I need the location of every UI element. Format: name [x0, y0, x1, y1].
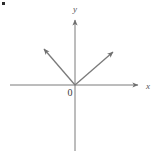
vector-diagram-figure: y x 0	[0, 0, 155, 155]
left-vector-arrow	[44, 49, 75, 85]
y-axis-label: y	[72, 4, 77, 14]
coordinate-plane-svg: y x 0	[0, 0, 155, 155]
origin-label: 0	[68, 87, 73, 98]
x-axis-label: x	[145, 81, 150, 91]
corner-dot-mark	[2, 2, 5, 5]
right-vector-arrow	[75, 52, 113, 85]
